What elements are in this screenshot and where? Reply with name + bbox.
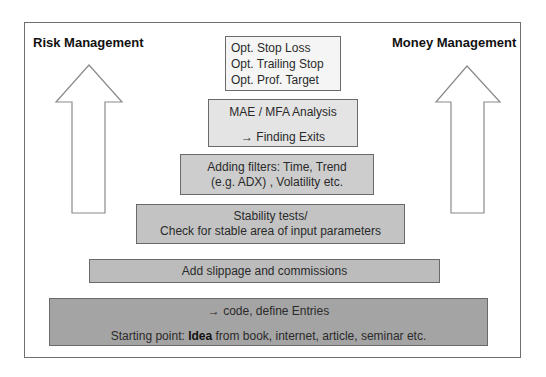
- idea-bold-text: Idea: [188, 329, 212, 343]
- code-entries-text: → code, define Entries: [50, 304, 487, 319]
- starting-point-prefix: Starting point:: [111, 329, 188, 343]
- opt-trailing-stop-text: Opt. Trailing Stop: [231, 56, 340, 72]
- starting-point-suffix: from book, internet, article, seminar et…: [212, 329, 426, 343]
- mae-mfa-text: MAE / MFA Analysis: [209, 105, 357, 120]
- level-mae-mfa-box: MAE / MFA Analysis → Finding Exits: [208, 99, 358, 147]
- stability-line1-text: Stability tests/: [137, 209, 404, 224]
- finding-exits-text: → Finding Exits: [209, 130, 357, 145]
- level-optimization-box: Opt. Stop Loss Opt. Trailing Stop Opt. P…: [225, 36, 341, 91]
- left-up-arrow-icon: [56, 65, 122, 213]
- filters-line1-text: Adding filters: Time, Trend: [181, 160, 373, 175]
- opt-prof-target-text: Opt. Prof. Target: [231, 72, 340, 88]
- starting-point-text: Starting point: Idea from book, internet…: [50, 329, 487, 344]
- slippage-text: Add slippage and commissions: [90, 264, 439, 279]
- level-filters-box: Adding filters: Time, Trend (e.g. ADX) ,…: [180, 154, 374, 195]
- opt-stop-loss-text: Opt. Stop Loss: [231, 40, 340, 56]
- level-slippage-box: Add slippage and commissions: [89, 259, 440, 283]
- level-stability-box: Stability tests/ Check for stable area o…: [136, 204, 405, 244]
- filters-line2-text: (e.g. ADX) , Volatility etc.: [181, 175, 373, 190]
- right-up-arrow-icon: [436, 66, 500, 213]
- level-idea-box: → code, define Entries Starting point: I…: [49, 298, 488, 346]
- stability-line2-text: Check for stable area of input parameter…: [137, 224, 404, 239]
